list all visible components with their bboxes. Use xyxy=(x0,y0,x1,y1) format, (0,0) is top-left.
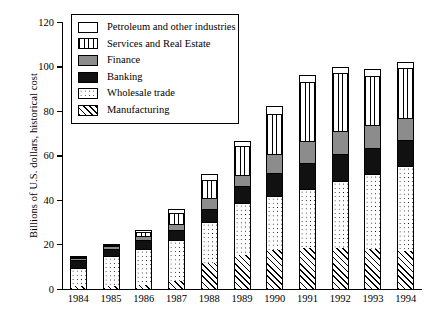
y-tick-label: 100 xyxy=(38,61,54,72)
bar-segment-banking xyxy=(135,240,152,249)
legend-label: Manufacturing xyxy=(107,105,169,116)
y-tick-label: 80 xyxy=(44,105,55,116)
stacked-bar xyxy=(103,244,120,289)
bar-segment-petroleum-and-other-industries xyxy=(266,106,283,114)
bar-segment-finance xyxy=(234,175,251,186)
bar-segment-banking xyxy=(70,260,87,268)
bar-segment-petroleum-and-other-industries xyxy=(201,174,218,180)
bar-segment-manufacturing xyxy=(234,255,251,288)
bar-segment-finance xyxy=(168,224,185,230)
y-tick-label: 20 xyxy=(44,239,55,250)
bar-segment-wholesale-trade xyxy=(397,166,414,250)
x-tick-label: 1989 xyxy=(232,293,253,304)
stacked-bar xyxy=(364,69,381,289)
bar-segment-finance xyxy=(103,246,120,248)
stacked-bar xyxy=(266,106,283,288)
bar-segment-manufacturing xyxy=(135,285,152,288)
bar-segment-wholesale-trade xyxy=(201,222,218,263)
bar-segment-petroleum-and-other-industries xyxy=(234,141,251,147)
bar-segment-manufacturing xyxy=(168,281,185,289)
bar-segment-wholesale-trade xyxy=(103,256,120,286)
bar-segment-wholesale-trade xyxy=(332,181,349,248)
bar-segment-services-and-real-estate xyxy=(201,180,218,198)
bar-segment-manufacturing xyxy=(332,248,349,289)
legend-swatch-icon xyxy=(78,55,98,66)
bar-segment-banking xyxy=(299,163,316,189)
legend-item: Services and Real Estate xyxy=(78,36,233,53)
stacked-bar xyxy=(135,230,152,289)
bar-segment-finance xyxy=(70,258,87,260)
y-axis-title: Billions of U.S. dollars, historical cos… xyxy=(28,31,39,281)
bar-segment-finance xyxy=(397,118,414,140)
bar-segment-banking xyxy=(364,148,381,175)
bar-segment-petroleum-and-other-industries xyxy=(332,67,349,74)
legend-item: Petroleum and other industries xyxy=(78,19,233,36)
x-tick-label: 1993 xyxy=(362,293,383,304)
stacked-bar xyxy=(168,209,185,289)
bar-segment-services-and-real-estate xyxy=(397,68,414,118)
y-tick-label: 120 xyxy=(38,17,54,28)
bar-segment-petroleum-and-other-industries xyxy=(364,69,381,77)
bar-segment-manufacturing xyxy=(201,263,218,289)
bar-segment-petroleum-and-other-industries xyxy=(135,230,152,232)
bar-segment-manufacturing xyxy=(364,249,381,289)
legend-label: Petroleum and other industries xyxy=(107,22,236,33)
y-tick-label: 40 xyxy=(44,194,55,205)
bar-segment-wholesale-trade xyxy=(168,240,185,281)
bar-segment-finance xyxy=(266,154,283,173)
legend-swatch-icon xyxy=(78,72,98,83)
bar-segment-finance xyxy=(135,236,152,239)
legend-item: Banking xyxy=(78,69,233,86)
bar-segment-petroleum-and-other-industries xyxy=(299,75,316,82)
bar-segment-banking xyxy=(168,230,185,240)
legend-item: Wholesale trade xyxy=(78,85,233,102)
stacked-bar xyxy=(332,67,349,289)
bar-segment-wholesale-trade xyxy=(70,268,87,287)
bar-segment-banking xyxy=(201,209,218,222)
stacked-bar xyxy=(70,256,87,289)
bar-segment-finance xyxy=(299,141,316,163)
bar-segment-petroleum-and-other-industries xyxy=(70,256,87,257)
bar-segment-banking xyxy=(397,140,414,167)
chart-container: Billions of U.S. dollars, historical cos… xyxy=(0,0,428,324)
chart-legend: Petroleum and other industriesServices a… xyxy=(71,14,239,124)
bar-segment-manufacturing xyxy=(266,250,283,289)
bar-segment-manufacturing xyxy=(70,286,87,288)
bar-segment-services-and-real-estate xyxy=(103,245,120,246)
x-tick-label: 1987 xyxy=(166,293,187,304)
x-tick-label: 1990 xyxy=(264,293,285,304)
bar-segment-petroleum-and-other-industries xyxy=(397,62,414,68)
legend-item: Manufacturing xyxy=(78,102,233,119)
x-tick-label: 1994 xyxy=(395,293,416,304)
x-tick-label: 1984 xyxy=(68,293,89,304)
bar-segment-banking xyxy=(266,173,283,196)
legend-label: Finance xyxy=(107,55,140,66)
legend-swatch-icon xyxy=(78,38,98,49)
bar-segment-wholesale-trade xyxy=(266,196,283,249)
legend-swatch-icon xyxy=(78,88,98,99)
x-axis-labels: 1984198519861987198819891990199119921993… xyxy=(62,293,422,313)
bar-segment-services-and-real-estate xyxy=(70,257,87,258)
bar-segment-services-and-real-estate xyxy=(266,114,283,154)
bar-segment-banking xyxy=(234,186,251,203)
bar-segment-wholesale-trade xyxy=(135,249,152,286)
x-tick-label: 1992 xyxy=(330,293,351,304)
bar-segment-finance xyxy=(364,125,381,147)
x-tick-label: 1991 xyxy=(297,293,318,304)
legend-swatch-icon xyxy=(78,22,98,33)
bar-segment-wholesale-trade xyxy=(299,189,316,248)
bar-segment-petroleum-and-other-industries xyxy=(168,209,185,213)
bar-segment-wholesale-trade xyxy=(364,174,381,248)
bar-segment-finance xyxy=(201,198,218,209)
bar-segment-manufacturing xyxy=(397,251,414,289)
stacked-bar xyxy=(234,141,251,289)
stacked-bar xyxy=(299,75,316,288)
bar-segment-services-and-real-estate xyxy=(135,232,152,236)
bar-segment-banking xyxy=(103,249,120,257)
bar-segment-services-and-real-estate xyxy=(234,146,251,175)
legend-swatch-icon xyxy=(78,105,98,116)
y-tick-label: 0 xyxy=(49,283,54,294)
bar-segment-services-and-real-estate xyxy=(364,76,381,125)
bar-segment-petroleum-and-other-industries xyxy=(103,244,120,245)
bar-segment-finance xyxy=(332,131,349,154)
